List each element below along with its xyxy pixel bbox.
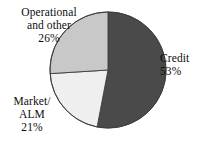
- pie-label-market-percent: 21%: [1, 121, 63, 134]
- pie-chart-figure: Operational and other 26% Credit 53% Mar…: [0, 0, 209, 141]
- pie-label-credit-line-1: Credit: [160, 52, 208, 65]
- pie-label-credit: Credit 53%: [160, 52, 208, 78]
- pie-label-operational-line-1: Operational: [6, 6, 92, 19]
- pie-label-operational-and-other: Operational and other 26%: [6, 6, 92, 45]
- pie-label-market-line-1: Market/: [1, 95, 63, 108]
- pie-label-market-alm: Market/ ALM 21%: [1, 95, 63, 134]
- pie-label-operational-percent: 26%: [6, 32, 92, 45]
- pie-label-operational-line-2: and other: [6, 19, 92, 32]
- pie-label-market-line-2: ALM: [1, 108, 63, 121]
- pie-label-credit-percent: 53%: [160, 65, 208, 78]
